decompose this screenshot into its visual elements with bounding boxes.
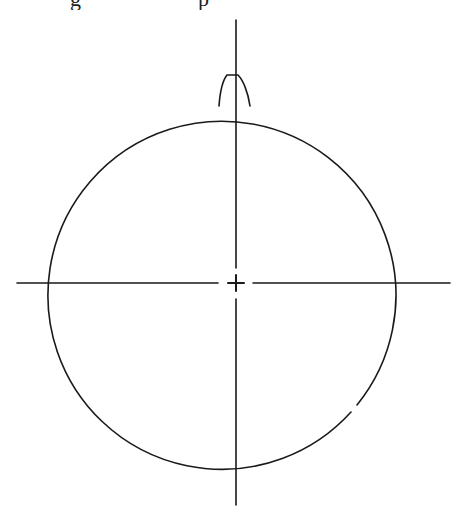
top-protrusion bbox=[219, 75, 250, 106]
circle-outline bbox=[48, 121, 396, 469]
circle-diagram bbox=[0, 0, 468, 517]
